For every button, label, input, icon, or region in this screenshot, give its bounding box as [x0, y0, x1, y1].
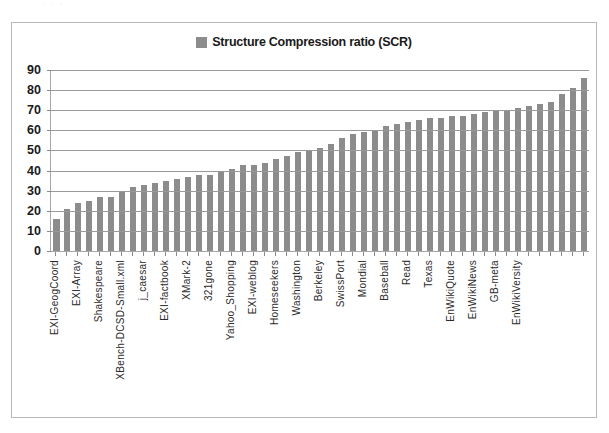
x-axis-tick-slot	[456, 252, 467, 257]
bar-slot	[337, 70, 348, 251]
bar-slot	[84, 70, 95, 251]
bar-slot	[413, 70, 424, 251]
bar-slot	[150, 70, 161, 251]
bar-slot	[183, 70, 194, 251]
bar	[152, 183, 158, 251]
bar-slot	[205, 70, 216, 251]
x-axis-tick-slot	[402, 252, 413, 257]
bar-slot	[315, 70, 326, 251]
x-axis-tick-slot	[511, 252, 522, 257]
x-axis-label-slot: EXI-Array	[72, 260, 83, 400]
x-axis-label-slot: EnWikiQuote	[445, 260, 456, 400]
x-axis-tick-slot	[358, 252, 369, 257]
x-axis-tick-slot	[423, 252, 434, 257]
x-axis-label-slot: Homeseekers	[270, 260, 281, 400]
x-axis-tick-slot	[149, 252, 160, 257]
x-axis-category-label: SwissPort	[336, 260, 346, 307]
bar	[251, 165, 257, 251]
x-axis-category-label: Yahoo_Shopping	[226, 260, 236, 340]
x-axis-tick-slot	[533, 252, 544, 257]
bar-slot	[457, 70, 468, 251]
x-axis-category-label: Read	[402, 260, 412, 285]
x-axis-category-label: j_caesar	[138, 260, 148, 300]
legend-series-label: Structure Compression ratio (SCR)	[212, 35, 411, 49]
x-axis-category-label: EXI-factbook	[160, 260, 170, 321]
legend-color-swatch	[196, 37, 207, 48]
gridline	[51, 150, 589, 151]
bar	[53, 219, 59, 251]
y-axis-tick-mark	[47, 231, 51, 232]
x-axis-label-slot: GB-meta	[489, 260, 500, 400]
x-axis-label-slot: Berkeley	[314, 260, 325, 400]
x-axis-tick-slot	[160, 252, 171, 257]
x-axis-label-slot: Mondial	[358, 260, 369, 400]
x-axis-tick-slot	[182, 252, 193, 257]
x-axis-tick-slot	[292, 252, 303, 257]
bar-slot	[172, 70, 183, 251]
x-axis-category-label: EXI-GeogCoord	[50, 260, 60, 335]
bar	[97, 197, 103, 251]
bar-slot	[73, 70, 84, 251]
bar-slot	[435, 70, 446, 251]
x-axis-tick-marks	[50, 252, 588, 257]
x-axis-label-slot	[347, 260, 358, 400]
bar-slot	[238, 70, 249, 251]
bar-slot	[567, 70, 578, 251]
x-axis-tick-slot	[193, 252, 204, 257]
x-axis-label-slot	[555, 260, 566, 400]
bar	[559, 94, 565, 251]
y-axis-tick-label: 0	[34, 245, 41, 258]
bar-slot	[359, 70, 370, 251]
x-axis-label-slot	[566, 260, 577, 400]
x-axis-tick-slot	[171, 252, 182, 257]
bar-slot	[479, 70, 490, 251]
bar	[119, 191, 125, 251]
bar-slot	[545, 70, 556, 251]
x-axis-label-slot	[369, 260, 380, 400]
bar-slot	[468, 70, 479, 251]
bar-slot	[106, 70, 117, 251]
x-axis-tick-slot	[391, 252, 402, 257]
x-axis-category-label: 321gone	[204, 260, 214, 301]
bar-slot	[403, 70, 414, 251]
x-axis-tick-slot	[72, 252, 83, 257]
bar-slot	[501, 70, 512, 251]
y-axis-tick-label: 40	[27, 164, 41, 177]
x-axis-label-slot: EXI-GeogCoord	[50, 260, 61, 400]
x-axis-tick-slot	[522, 252, 533, 257]
x-axis-label-slot	[456, 260, 467, 400]
bar-slot	[216, 70, 227, 251]
bar	[504, 110, 510, 251]
x-axis-tick-slot	[478, 252, 489, 257]
x-axis-label-slot: Texas	[423, 260, 434, 400]
x-axis-tick-slot	[83, 252, 94, 257]
bar	[196, 175, 202, 251]
y-axis-tick-label: 80	[27, 84, 41, 97]
bar	[141, 185, 147, 251]
x-axis-label-slot	[325, 260, 336, 400]
bar-slot	[326, 70, 337, 251]
gridline	[51, 110, 589, 111]
bar-slot	[117, 70, 128, 251]
x-axis-label-slot: Shakespeare	[94, 260, 105, 400]
y-axis-tick-mark	[47, 171, 51, 172]
x-axis-label-slot	[412, 260, 423, 400]
x-axis-label-slot	[281, 260, 292, 400]
x-axis-label-slot: EnWikiNews	[467, 260, 478, 400]
bar-slot	[381, 70, 392, 251]
x-axis-category-label: Berkeley	[314, 260, 324, 301]
x-axis-tick-slot	[215, 252, 226, 257]
x-axis-label-slot: Yahoo_Shopping	[226, 260, 237, 400]
x-axis-label-slot: SwissPort	[336, 260, 347, 400]
x-axis-tick-slot	[281, 252, 292, 257]
x-axis-tick-slot	[237, 252, 248, 257]
bar	[350, 134, 356, 251]
x-axis-label-slot	[478, 260, 489, 400]
bar-slot	[392, 70, 403, 251]
bar-slot	[194, 70, 205, 251]
bar-slot	[51, 70, 62, 251]
x-axis-label-slot: j_caesar	[138, 260, 149, 400]
x-axis-category-label: Homeseekers	[270, 260, 280, 325]
x-axis-category-label: Washington	[292, 260, 302, 315]
bar	[581, 78, 587, 251]
